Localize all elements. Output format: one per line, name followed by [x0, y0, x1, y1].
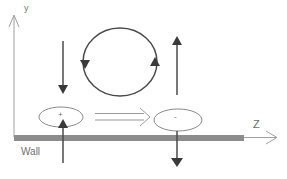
right-up-arrow-icon: [172, 36, 182, 95]
left-down-arrow-icon: [58, 41, 68, 94]
negative-sign: -: [174, 113, 177, 121]
z-axis-label: Z: [253, 119, 260, 130]
circulation-loop: [80, 28, 160, 96]
z-axis: [244, 131, 277, 144]
y-axis-label: y: [24, 4, 29, 13]
positive-sign: +: [58, 111, 63, 119]
wall-bar: [14, 135, 244, 141]
negative-vortex-ellipse: [154, 109, 202, 131]
vortex-wall-diagram: [0, 0, 287, 179]
convection-double-arrow-icon: [95, 108, 150, 126]
wall-label: Wall: [21, 147, 40, 157]
loop-arrowhead-down-icon: [80, 60, 90, 69]
loop-arrowhead-up-icon: [150, 57, 160, 66]
y-axis: [9, 15, 19, 137]
